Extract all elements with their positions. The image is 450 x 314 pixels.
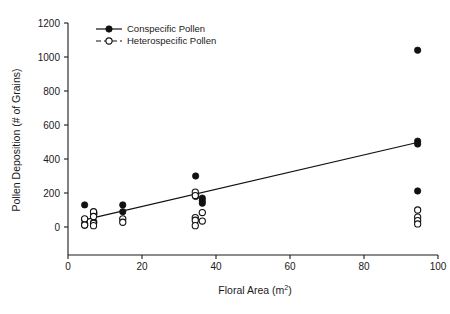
y-axis-title-text: Pollen Deposition (# of Grains) xyxy=(10,69,22,212)
y-tick-label: 800 xyxy=(43,86,60,97)
y-axis-title: Pollen Deposition (# of Grains) xyxy=(10,69,22,212)
data-point-filled xyxy=(120,209,126,215)
x-axis-title-close: ) xyxy=(288,284,292,296)
data-point-open xyxy=(120,219,126,225)
data-point-open xyxy=(90,213,96,219)
data-point-open xyxy=(192,192,198,198)
regression-line xyxy=(87,142,420,219)
legend-item[interactable]: Conspecific Pollen xyxy=(96,23,205,34)
legend-item[interactable]: Heterospecific Pollen xyxy=(96,35,216,46)
data-point-filled xyxy=(199,200,205,206)
x-tick-label: 80 xyxy=(358,261,370,272)
x-tick-label: 0 xyxy=(65,261,71,272)
series-conspecific-pollen xyxy=(81,47,420,229)
x-axis-title-base: Floral Area (m xyxy=(218,284,284,296)
data-point-open xyxy=(199,218,205,224)
x-axis-tick-labels: 020406080100 xyxy=(65,261,447,272)
data-point-filled xyxy=(414,188,420,194)
y-tick-label: 0 xyxy=(54,222,60,233)
trend-line-layer xyxy=(87,142,420,219)
y-tick-label: 400 xyxy=(43,154,60,165)
y-tick-label: 600 xyxy=(43,120,60,131)
x-tick-label: 20 xyxy=(136,261,148,272)
data-point-filled xyxy=(120,202,126,208)
data-point-open xyxy=(82,222,88,228)
legend-marker-open-circle xyxy=(106,38,112,44)
data-point-filled xyxy=(81,202,87,208)
chart-legend: Conspecific PollenHeterospecific Pollen xyxy=(96,23,216,46)
data-point-open xyxy=(82,216,88,222)
data-point-filled xyxy=(192,173,198,179)
y-axis-tick-labels: 020040060080010001200 xyxy=(38,18,61,233)
x-tick-label: 40 xyxy=(210,261,222,272)
x-tick-label: 100 xyxy=(430,261,447,272)
data-point-filled xyxy=(414,141,420,147)
y-tick-label: 200 xyxy=(43,188,60,199)
legend-label: Conspecific Pollen xyxy=(127,23,205,34)
data-point-open xyxy=(90,223,96,229)
data-point-filled xyxy=(414,47,420,53)
y-tick-label: 1200 xyxy=(38,18,61,29)
x-tick-label: 60 xyxy=(284,261,296,272)
data-point-open xyxy=(415,221,421,227)
x-axis-group: 020406080100 xyxy=(65,255,447,272)
y-tick-label: 1000 xyxy=(38,52,61,63)
y-axis-group: 020040060080010001200 xyxy=(38,18,68,256)
data-point-open xyxy=(199,209,205,215)
scatter-plot-figure: 020040060080010001200 020406080100 Polle… xyxy=(0,0,450,314)
data-points-layer xyxy=(81,47,420,229)
data-point-open xyxy=(192,223,198,229)
y-axis-ticks xyxy=(64,23,68,227)
x-axis-ticks xyxy=(68,255,438,259)
legend-label: Heterospecific Pollen xyxy=(127,35,216,46)
legend-marker-filled-circle xyxy=(106,26,112,32)
x-axis-title: Floral Area (m2) xyxy=(218,284,291,296)
data-point-open xyxy=(415,207,421,213)
x-axis-title-text: Floral Area (m2) xyxy=(218,284,291,296)
chart-canvas: 020040060080010001200 020406080100 Polle… xyxy=(0,0,450,314)
